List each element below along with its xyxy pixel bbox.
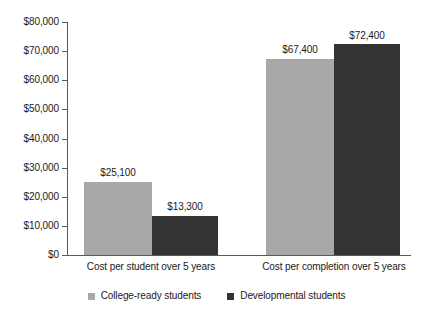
x-axis-category-label-0: Cost per student over 5 years [71,261,231,273]
legend-item-college-ready: College-ready students [88,291,202,301]
y-axis-label-20000: $20,000 [24,192,59,202]
y-axis-label-70000: $70,000 [24,46,59,56]
y-axis-label-40000: $40,000 [24,134,59,144]
plot-area [67,22,410,255]
x-axis-line [67,255,411,256]
value-label-group0-developmental: $13,300 [152,202,218,212]
bar-group1-developmental [334,44,400,255]
bar-group0-developmental [152,216,218,255]
y-axis-label-80000: $80,000 [24,17,59,27]
legend-item-developmental: Developmental students [227,291,345,301]
y-axis-label-10000: $10,000 [24,221,59,231]
y-axis-label-0: $0 [48,250,59,260]
bar-group1-college-ready [266,59,334,255]
y-axis-label-60000: $60,000 [24,75,59,85]
legend-label-college-ready: College-ready students [101,291,202,301]
y-axis-tick-0 [62,255,67,256]
chart-legend: College-ready students Developmental stu… [0,291,433,301]
legend-swatch-icon-developmental [227,293,234,300]
legend-swatch-icon-college-ready [88,293,95,300]
bar-group0-college-ready [84,182,152,255]
legend-label-developmental: Developmental students [240,291,345,301]
y-axis-label-30000: $30,000 [24,163,59,173]
y-axis-label-50000: $50,000 [24,104,59,114]
value-label-group0-college-ready: $25,100 [84,168,152,178]
value-label-group1-developmental: $72,400 [334,31,400,41]
bar-chart: $80,000 $70,000 $60,000 $50,000 $40,000 … [0,0,433,321]
value-label-group1-college-ready: $67,400 [266,45,334,55]
x-axis-category-label-1: Cost per completion over 5 years [248,261,420,273]
